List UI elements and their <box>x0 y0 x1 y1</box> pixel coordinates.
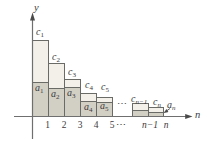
bar-n-lower <box>148 112 164 117</box>
a3-label: a3 <box>67 88 76 101</box>
c5-label: c5 <box>101 82 109 95</box>
tick-3: 3 <box>78 120 83 130</box>
a5-label: a5 <box>100 101 109 114</box>
x-axis-label: n <box>195 110 200 120</box>
bar-n-1-lower <box>132 110 149 117</box>
x-axis-arrow-icon <box>185 114 192 119</box>
series-staircase-figure: y n c1 c2 c3 c4 c5 cn−1 cn a1 a2 a3 a4 a… <box>0 0 216 146</box>
tick-2: 2 <box>62 120 67 130</box>
c2-label: c2 <box>52 52 60 65</box>
c-n-label: cn <box>153 97 161 110</box>
tick-n-1: n−1 <box>142 120 158 130</box>
c1-label: c1 <box>36 27 44 40</box>
a2-label: a2 <box>51 89 60 102</box>
y-axis-arrow-icon <box>30 13 35 21</box>
tick-1: 1 <box>45 120 50 130</box>
tick-4: 4 <box>94 120 99 130</box>
a4-label: a4 <box>84 102 93 115</box>
c4-label: c4 <box>85 80 93 93</box>
mid-ellipsis: ⋯ <box>117 99 127 109</box>
y-axis-label: y <box>34 3 39 13</box>
c-n-1-label: cn−1 <box>131 94 147 107</box>
tick-n: n <box>164 120 169 130</box>
tick-ellipsis: ⋯ <box>116 120 126 130</box>
c3-label: c3 <box>68 67 76 80</box>
a1-label: a1 <box>35 83 44 96</box>
tick-5: 5 <box>110 120 115 130</box>
a-n-label: an <box>167 100 176 113</box>
